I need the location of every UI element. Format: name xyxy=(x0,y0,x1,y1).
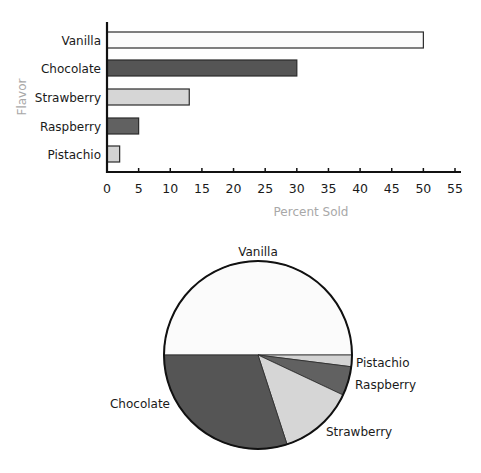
bar-pistachio xyxy=(107,146,120,162)
x-tick-label: 40 xyxy=(352,181,368,196)
bar-label-chocolate: Chocolate xyxy=(41,62,101,76)
bar-strawberry xyxy=(107,89,189,105)
pie-slice-vanilla xyxy=(164,261,352,355)
bar-chart: VanillaChocolateStrawberryRaspberryPista… xyxy=(15,22,463,219)
bar-label-pistachio: Pistachio xyxy=(48,148,102,162)
bar-raspberry xyxy=(107,118,139,134)
y-axis-title: Flavor xyxy=(15,78,29,115)
x-tick-label: 55 xyxy=(447,181,463,196)
x-tick-label: 5 xyxy=(135,181,143,196)
x-tick-label: 10 xyxy=(162,181,178,196)
bar-label-vanilla: Vanilla xyxy=(61,34,101,48)
pie-label-raspberry: Raspberry xyxy=(355,378,416,392)
x-tick-label: 30 xyxy=(289,181,305,196)
bar-vanilla xyxy=(107,32,423,48)
pie-chart: VanillaPistachioRaspberryStrawberryChoco… xyxy=(110,245,416,449)
bar-chocolate xyxy=(107,60,297,76)
pie-label-vanilla: Vanilla xyxy=(238,245,278,259)
bar-label-strawberry: Strawberry xyxy=(35,91,101,105)
x-tick-label: 0 xyxy=(103,181,111,196)
x-tick-label: 15 xyxy=(194,181,210,196)
pie-label-chocolate: Chocolate xyxy=(110,397,170,411)
x-tick-label: 25 xyxy=(257,181,273,196)
bar-label-raspberry: Raspberry xyxy=(40,120,101,134)
pie-label-strawberry: Strawberry xyxy=(326,425,392,439)
x-tick-label: 20 xyxy=(226,181,242,196)
pie-label-pistachio: Pistachio xyxy=(356,356,410,370)
x-tick-label: 35 xyxy=(321,181,337,196)
chart-canvas: VanillaChocolateStrawberryRaspberryPista… xyxy=(0,0,481,473)
x-tick-label: 50 xyxy=(415,181,431,196)
x-tick-label: 45 xyxy=(384,181,400,196)
x-axis-title: Percent Sold xyxy=(274,205,349,219)
